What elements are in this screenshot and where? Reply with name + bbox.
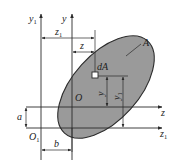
label-dim-z1: z1 [54,26,62,38]
label-dim-z: z [79,40,84,51]
label-dim-b: b [54,138,59,149]
label-z1-axis: z1 [159,128,167,140]
label-z-axis: z [160,107,165,118]
label-y1-axis: y1 [28,13,37,25]
area-shape [40,19,172,155]
element-dA [92,72,98,78]
label-y-axis: y [61,13,67,24]
parallel-axis-diagram: y1 y z1 z A dA O y y1 z z1 a O1 b [0,0,176,164]
label-area-A: A [142,37,150,48]
label-origin-O: O [75,92,82,103]
label-dim-y: y [95,91,106,97]
label-dim-a: a [17,111,22,122]
label-dA: dA [97,61,109,72]
label-origin-O1: O1 [29,131,39,143]
